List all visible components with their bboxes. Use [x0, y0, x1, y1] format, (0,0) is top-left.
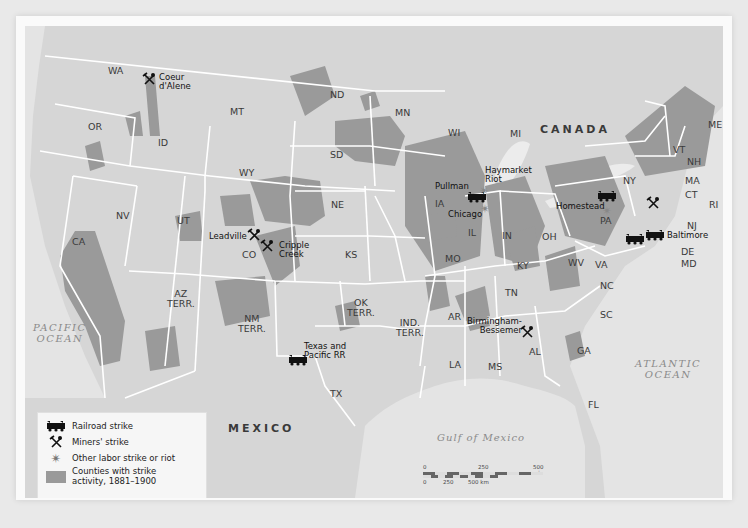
state-label-al: AL: [529, 347, 541, 357]
state-label-nm: NM TERR.: [238, 314, 266, 334]
state-label-sd: SD: [330, 150, 343, 160]
state-label-nd: ND: [330, 90, 344, 100]
state-label-ut: UT: [177, 216, 190, 226]
event-label-baltimore: Baltimore: [667, 231, 708, 240]
water-label-pacific: PACIFIC OCEAN: [33, 322, 87, 344]
legend-item-counties: Counties with strike activity, 1881–1900: [46, 467, 156, 487]
railroad-strike-icon: [597, 191, 617, 202]
state-label-ar: AR: [448, 312, 461, 322]
event-label-coeur-dalene: Coeur d'Alene: [159, 73, 191, 91]
state-label-tn: TN: [505, 288, 518, 298]
legend-label: Miners' strike: [72, 437, 129, 447]
county-swatch: [46, 471, 66, 483]
state-label-tx: TX: [330, 389, 342, 399]
state-label-mn: MN: [395, 108, 410, 118]
state-label-ok: OK TERR.: [347, 298, 375, 318]
other-strike-icon: ✴: [46, 451, 66, 465]
state-label-ca: CA: [72, 237, 85, 247]
state-label-ky: KY: [517, 261, 529, 271]
state-label-ne: NE: [331, 200, 344, 210]
legend-label: Other labor strike or riot: [72, 453, 175, 463]
miners-strike-icon: [520, 325, 534, 339]
state-label-md: MD: [681, 259, 697, 269]
miners-strike-icon: [260, 239, 274, 253]
state-label-ms: MS: [488, 362, 502, 372]
water-label-atlantic: ATLANTIC OCEAN: [635, 358, 701, 380]
state-label-az: AZ TERR.: [167, 289, 195, 309]
state-label-ri: RI: [709, 200, 718, 210]
event-label-cripple-creek: Cripple Creek: [279, 241, 309, 259]
state-label-mt: MT: [230, 107, 244, 117]
state-label-nc: NC: [600, 281, 614, 291]
state-label-wy: WY: [239, 168, 254, 178]
event-label-haymarket: Haymarket Riot: [485, 166, 532, 184]
state-label-ct: CT: [685, 190, 697, 200]
country-label-mexico: MEXICO: [228, 422, 294, 435]
state-label-ny: NY: [623, 176, 636, 186]
state-label-vt: VT: [673, 145, 685, 155]
state-label-fl: FL: [588, 400, 599, 410]
state-label-mo: MO: [445, 254, 461, 264]
state-label-me: ME: [708, 120, 722, 130]
state-label-va: VA: [595, 260, 607, 270]
miners-strike-icon: [247, 228, 261, 242]
state-label-ind-terr: IND. TERR.: [396, 318, 424, 338]
state-label-wv: WV: [568, 258, 584, 268]
event-label-chicago: Chicago: [448, 210, 482, 219]
event-label-pullman: Pullman: [435, 182, 469, 191]
event-label-texas-pacific: Texas and Pacific RR: [304, 342, 346, 360]
event-label-homestead: Homestead: [556, 202, 605, 211]
us-strike-map: CANADA MEXICO PACIFIC OCEAN ATLANTIC OCE…: [25, 26, 723, 498]
miners-strike-icon: [49, 435, 63, 449]
state-label-wa: WA: [108, 66, 123, 76]
legend-item-miners: Miners' strike: [46, 435, 129, 449]
state-label-co: CO: [242, 250, 256, 260]
other-strike-icon: ✴: [479, 184, 489, 198]
event-label-leadville: Leadville: [209, 232, 247, 241]
legend-label: Railroad strike: [72, 421, 133, 431]
scale-bar-km: [423, 475, 498, 478]
state-label-ma: MA: [685, 176, 700, 186]
state-label-ia: IA: [435, 199, 444, 209]
miners-strike-icon: [142, 72, 156, 86]
state-label-oh: OH: [542, 232, 557, 242]
state-label-nh: NH: [687, 157, 701, 167]
legend-item-other: ✴ Other labor strike or riot: [46, 451, 175, 465]
water-label-gulf: Gulf of Mexico: [437, 432, 525, 443]
state-label-il: IL: [468, 228, 476, 238]
state-label-or: OR: [88, 122, 102, 132]
country-label-canada: CANADA: [540, 123, 610, 136]
legend-label: Counties with strike activity, 1881–1900: [72, 467, 156, 487]
railroad-strike-icon: [46, 421, 66, 432]
state-label-ks: KS: [345, 250, 357, 260]
legend-item-railroad: Railroad strike: [46, 419, 133, 433]
railroad-strike-icon: [625, 234, 645, 245]
state-label-nv: NV: [116, 211, 130, 221]
state-label-id: ID: [158, 138, 168, 148]
state-label-la: LA: [449, 360, 461, 370]
state-label-sc: SC: [600, 310, 613, 320]
map-legend: Railroad strike Miners' strike ✴ Other l…: [37, 412, 207, 498]
scale-bar: 0 250 500 mi 0 250 500 km: [423, 464, 545, 490]
state-label-mi: MI: [510, 129, 521, 139]
state-label-wi: WI: [448, 128, 460, 138]
miners-strike-icon: [646, 196, 660, 210]
event-label-birmingham-bessemer: Birmingham- Bessemer: [467, 317, 522, 335]
state-label-ga: GA: [577, 346, 591, 356]
railroad-strike-icon: [645, 230, 665, 241]
state-label-de: DE: [681, 247, 694, 257]
state-label-in: IN: [502, 231, 512, 241]
